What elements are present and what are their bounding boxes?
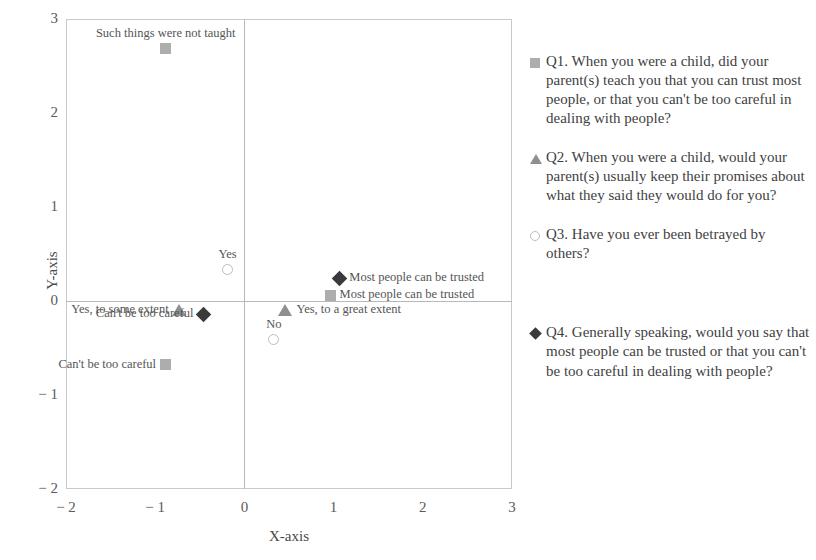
x-tick-label: 3: [492, 499, 532, 516]
x-tick-label: 0: [224, 499, 264, 516]
data-point-label: Yes: [218, 247, 236, 262]
legend-item-q2[interactable]: Q2. When you were a child, would your pa…: [530, 148, 810, 205]
legend-item-q4[interactable]: Q4. Generally speaking, would you say th…: [530, 323, 810, 380]
data-point-label: Most people can be trusted: [349, 270, 484, 285]
y-tick-label: 3: [18, 10, 58, 27]
data-point-label: Most people can be trusted: [340, 287, 475, 302]
legend-item-label: Q3. Have you ever been betrayed by other…: [546, 225, 810, 263]
y-tick-label: − 1: [18, 386, 58, 403]
triangle-glyph-icon: [530, 154, 542, 164]
plot-area: [66, 19, 512, 489]
x-tick-label: − 2: [46, 499, 86, 516]
x-tick-label: − 1: [135, 499, 175, 516]
vertical-origin-axis: [244, 19, 245, 489]
legend-item-label: Q1. When you were a child, did your pare…: [546, 52, 810, 128]
data-point-label: Such things were not taught: [96, 26, 236, 41]
triangle-marker-icon: [278, 304, 292, 316]
square-marker-icon: [160, 43, 171, 54]
x-tick-label: 2: [403, 499, 443, 516]
data-point-label: No: [266, 317, 281, 332]
chart-canvas: 3210− 1− 2 − 2− 10123 Y-axis X-axis Such…: [0, 0, 816, 560]
diamond-glyph-icon: [529, 328, 542, 341]
data-point-label: Can't be too careful: [58, 357, 156, 372]
square-glyph-icon: [530, 58, 540, 68]
data-point-label: Yes, to a great extent: [296, 302, 401, 317]
y-axis-title: Y-axis: [44, 211, 61, 331]
legend-item-label: Q2. When you were a child, would your pa…: [546, 148, 810, 205]
y-tick-label: − 2: [18, 480, 58, 497]
legend-triangle-icon: [530, 154, 542, 164]
legend-diamond-icon: [530, 329, 540, 338]
legend-square-icon: [530, 58, 540, 68]
legend-item-label: Q4. Generally speaking, would you say th…: [546, 323, 810, 380]
square-marker-icon: [160, 359, 171, 370]
legend-item-q1[interactable]: Q1. When you were a child, did your pare…: [530, 52, 810, 128]
square-marker-icon: [325, 290, 336, 301]
circle-glyph-icon: [530, 231, 540, 241]
x-tick-label: 1: [314, 499, 354, 516]
x-axis-title: X-axis: [229, 528, 349, 545]
y-tick-label: 2: [18, 104, 58, 121]
legend: Q1. When you were a child, did your pare…: [530, 52, 810, 401]
legend-circle-icon: [530, 231, 540, 241]
data-point-label: Can't be too careful: [96, 306, 194, 321]
legend-item-q3[interactable]: Q3. Have you ever been betrayed by other…: [530, 225, 810, 263]
